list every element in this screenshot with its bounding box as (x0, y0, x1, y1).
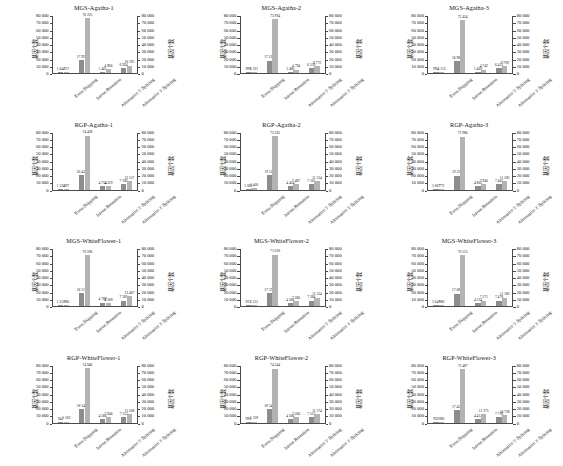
bar: 20 434 (79, 175, 84, 190)
axis-tick (237, 409, 239, 410)
axis-tick-label: 40 000 (411, 159, 424, 164)
bar: 18 115 (79, 293, 84, 306)
axis-tick-label: 20 000 (517, 57, 530, 62)
y-axis-title-left: 基因个数 (406, 272, 413, 292)
plot-area: 9941 15516 98572 4541 4694 7426 4559 709 (427, 16, 513, 74)
x-axis-labels: Exon SkippingIntron RetentionAlternative… (240, 193, 326, 231)
axis-tick (326, 183, 328, 184)
bar-value-label: 697 (64, 185, 69, 189)
x-axis-labels: Exon SkippingIntron RetentionAlternative… (240, 309, 326, 347)
bar-container: 93098017 45173 4874 41211 2757 73810 738 (428, 366, 512, 423)
y-axis-title-left: 基因个数 (218, 39, 225, 59)
axis-tick (326, 373, 328, 374)
axis-tick-label: 0 (422, 188, 424, 193)
axis-tick (237, 74, 239, 75)
bar: 73 487 (460, 369, 465, 422)
bar-value-label: 772 (439, 185, 444, 189)
axis-tick-label: 80 000 (411, 14, 424, 19)
axis-tick (425, 264, 427, 265)
bar-group: 18 34474 344 (267, 366, 278, 423)
axis-tick-label: 40 000 (329, 43, 342, 48)
chart-panel: RGP-Agatha-11 12469720 43474 4284 7144 3… (0, 117, 188, 234)
axis-tick-label: 20 000 (329, 407, 342, 412)
axis-tick-label: 20 000 (411, 290, 424, 295)
axis-tick (237, 45, 239, 46)
axis-tick-label: 20 000 (224, 290, 237, 295)
y-axis-title-right: 基因个数 (354, 388, 361, 408)
axis-tick-label: 80 000 (411, 363, 424, 368)
plot-area: 9961 35918 34474 3444 5667 2667 51211 57… (240, 366, 326, 424)
bar: 4 794 (293, 70, 298, 73)
axis-tick (138, 31, 140, 32)
axis-tick-label: 60 000 (36, 261, 49, 266)
axis-tick (326, 416, 328, 417)
axis-tick-label: 80 000 (36, 247, 49, 252)
bar-group: 930980 (433, 366, 444, 423)
axis-tick (425, 249, 427, 250)
axis-tick (138, 162, 140, 163)
axis-tick (138, 140, 140, 141)
bar-value-label: 7 266 (292, 413, 300, 417)
axis-tick-label: 0 (329, 421, 331, 426)
bar: 1 124 (58, 189, 63, 190)
y-axis-title-left: 基因个数 (406, 155, 413, 175)
axis-tick-label: 20 000 (329, 57, 342, 62)
axis-tick-label: 30 000 (517, 50, 530, 55)
axis-tick-label: 30 000 (517, 399, 530, 404)
axis-tick-label: 80 000 (141, 14, 154, 19)
axis-tick (237, 67, 239, 68)
axis-tick (513, 387, 515, 388)
axis-tick-label: 0 (517, 188, 519, 193)
bar-container: 9221 25117 37271 0304 5667 2667 38411 53… (241, 249, 325, 306)
y-axis-title-right: 基因个数 (354, 155, 361, 175)
bar: 4 188 (106, 303, 111, 306)
bar-value-label: 13 407 (124, 292, 134, 296)
axis-tick (50, 402, 52, 403)
axis-tick-label: 50 000 (517, 35, 530, 40)
chart-panel: MGS-WhiteFlower-29221 25117 37271 0304 5… (188, 233, 376, 350)
bar-container: 9961 35918 34474 3444 5667 2667 51211 57… (241, 366, 325, 423)
axis-tick (237, 52, 239, 53)
bar: 7 940 (481, 184, 486, 190)
y-axis-title-left: 基因个数 (31, 155, 38, 175)
axis-tick (513, 271, 515, 272)
bar: 1 461 (100, 72, 105, 73)
axis-tick-label: 10 000 (141, 297, 154, 302)
bar-container: 1 21298618 11570 5964 7884 1887 38513 40… (53, 249, 137, 306)
axis-tick-label: 50 000 (517, 385, 530, 390)
chart-panel: RGP-WhiteFlower-19411 18218 34874 9464 5… (0, 350, 188, 466)
axis-tick (326, 191, 328, 192)
axis-tick (138, 380, 140, 381)
axis-tick-label: 20 000 (517, 290, 530, 295)
axis-tick (513, 23, 515, 24)
axis-tick (425, 162, 427, 163)
axis-tick (50, 176, 52, 177)
bar-value-label: 73 487 (458, 365, 468, 369)
axis-tick (513, 45, 515, 46)
axis-tick-label: 40 000 (224, 159, 237, 164)
axis-tick (326, 256, 328, 257)
bar: 17 451 (454, 410, 459, 423)
axis-tick (50, 307, 52, 308)
axis-tick (513, 74, 515, 75)
bar: 74 344 (272, 369, 277, 423)
axis-tick (425, 140, 427, 141)
axis-tick (138, 16, 140, 17)
axis-tick-label: 70 000 (329, 21, 342, 26)
axis-tick (425, 271, 427, 272)
bar-value-label: 11 585 (500, 177, 510, 181)
axis-tick (513, 402, 515, 403)
axis-tick-label: 50 000 (329, 152, 342, 157)
axis-tick (425, 293, 427, 294)
bar: 1 044 (58, 72, 63, 73)
x-axis-label: Exon Skipping (73, 194, 98, 216)
axis-tick-label: 80 000 (517, 363, 530, 368)
axis-tick (513, 395, 515, 396)
axis-tick-label: 10 000 (411, 64, 424, 69)
x-axis-label: Intron Retention (95, 77, 122, 101)
axis-tick-label: 60 000 (141, 261, 154, 266)
axis-tick-label: 60 000 (411, 145, 424, 150)
bar-value-label: 12 157 (124, 177, 134, 181)
bar-group: 4 5667 946 (100, 366, 111, 423)
plot-area: 1 06777219 32772 9864 8627 9407 46211 58… (427, 133, 513, 191)
